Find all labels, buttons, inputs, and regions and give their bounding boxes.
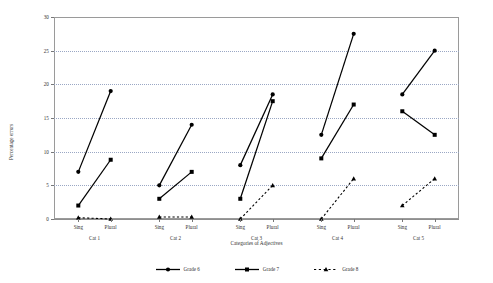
data-point [352,32,356,36]
circle-marker-icon [155,265,181,274]
data-point [400,109,404,113]
x-tick-label: Sing [74,224,83,230]
series-grade-6 [76,32,437,188]
data-point [433,49,437,53]
data-point [352,103,356,107]
x-tick-mark [240,219,241,222]
data-point [400,203,405,207]
data-point [157,183,161,187]
data-point [432,176,437,180]
x-tick-mark [273,219,274,222]
data-point [76,170,80,174]
x-tick-label: Sing [398,224,407,230]
legend-item-grade-6[interactable]: Grade 6 [155,265,200,274]
data-point [271,99,275,103]
x-axis-title: Categories of Adjectives [54,240,459,246]
data-point [270,183,275,187]
x-tick-mark [159,219,160,222]
series-grade-7 [76,99,436,207]
legend-label: Grade 6 [184,266,200,272]
y-tick-label: 0 [46,216,49,222]
data-point [76,204,80,208]
plot-area: 051015202530 [54,17,459,219]
y-tick-label: 20 [44,81,49,87]
y-tick-label: 15 [44,115,49,121]
legend-item-grade-8[interactable]: Grade 8 [313,265,358,274]
x-tick-label: Plural [348,224,360,230]
series-segment [240,185,272,219]
triangle-marker-icon [313,265,339,274]
y-tick-label: 5 [46,182,49,188]
x-tick-label: Plural [105,224,117,230]
data-point [400,92,404,96]
x-tick-mark [111,219,112,222]
series-segment [78,160,110,206]
series-segment [402,179,434,206]
y-tick-label: 25 [44,48,49,54]
chart-figure: Percentage errors 051015202530 SingPlura… [0,0,493,283]
x-tick-label: Sing [155,224,164,230]
series-segment [240,94,272,165]
legend-label: Grade 7 [263,266,279,272]
y-axis-title: Percentage errors [8,123,14,159]
data-point [190,123,194,127]
x-tick-mark [435,219,436,222]
x-tick-mark [78,219,79,222]
data-point [351,176,356,180]
series-segment [321,179,353,219]
x-tick-mark [402,219,403,222]
chart-legend: Grade 6Grade 7Grade 8 [54,262,459,276]
x-tick-mark [321,219,322,222]
series-segment [321,105,353,159]
data-point [109,158,113,162]
series-segment [240,101,272,199]
x-tick-label: Sing [317,224,326,230]
x-tick-mark [192,219,193,222]
legend-item-grade-7[interactable]: Grade 7 [234,265,279,274]
legend-label: Grade 8 [342,266,358,272]
series-segment [78,91,110,172]
square-marker-icon [234,265,260,274]
data-point [319,133,323,137]
data-point [190,170,194,174]
x-tick-label: Plural [429,224,441,230]
data-point [271,92,275,96]
series-layer [54,17,459,219]
data-point [238,163,242,167]
x-axis: SingPluralSingPluralSingPluralSingPlural… [54,219,459,259]
x-tick-label: Sing [236,224,245,230]
y-tick-label: 10 [44,149,49,155]
data-point [157,197,161,201]
x-tick-mark [354,219,355,222]
x-tick-label: Plural [267,224,279,230]
x-tick-label: Plural [186,224,198,230]
series-svg [54,17,459,219]
data-point [238,197,242,201]
series-segment [402,111,434,135]
data-point [433,133,437,137]
y-tick-label: 30 [44,14,49,20]
series-segment [402,51,434,95]
data-point [319,156,323,160]
series-segment [321,34,353,135]
series-grade-8 [76,176,437,221]
data-point [109,89,113,93]
